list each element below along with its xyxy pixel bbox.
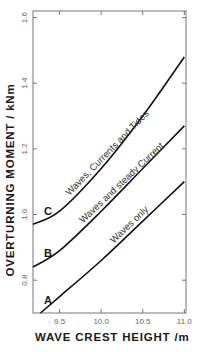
curves: [33, 57, 184, 313]
y-axis-title: OVERTURNING MOMENT / kNm: [4, 84, 16, 277]
curve-letter-c: C: [44, 205, 52, 217]
x-tick-label: 10.5: [135, 317, 151, 326]
plot-frame: [33, 11, 186, 313]
y-tick-label: 1.0: [20, 208, 29, 220]
x-tick-label: 9.5: [54, 317, 66, 326]
axis-ticks: 9.510.010.511.00.81.01.21.41.6: [20, 11, 192, 326]
chart-canvas: 9.510.010.511.00.81.01.21.41.6 AWaves on…: [0, 0, 202, 352]
x-tick-label: 10.0: [93, 317, 109, 326]
curve-name-a: Waves only: [107, 203, 150, 245]
y-tick-label: 1.6: [20, 11, 29, 23]
curve-name-c: Waves, Currents and Tides: [63, 108, 151, 198]
plot-border: [33, 11, 186, 313]
x-tick-label: 11.0: [177, 317, 193, 326]
curve-a: [40, 182, 184, 313]
curve-letter-b: B: [44, 247, 52, 259]
curve-letter-a: A: [44, 294, 52, 306]
y-tick-label: 0.8: [20, 274, 29, 286]
x-axis-title: WAVE CREST HEIGHT /m: [35, 331, 189, 343]
y-tick-label: 1.4: [20, 77, 29, 89]
y-tick-label: 1.2: [20, 143, 29, 155]
